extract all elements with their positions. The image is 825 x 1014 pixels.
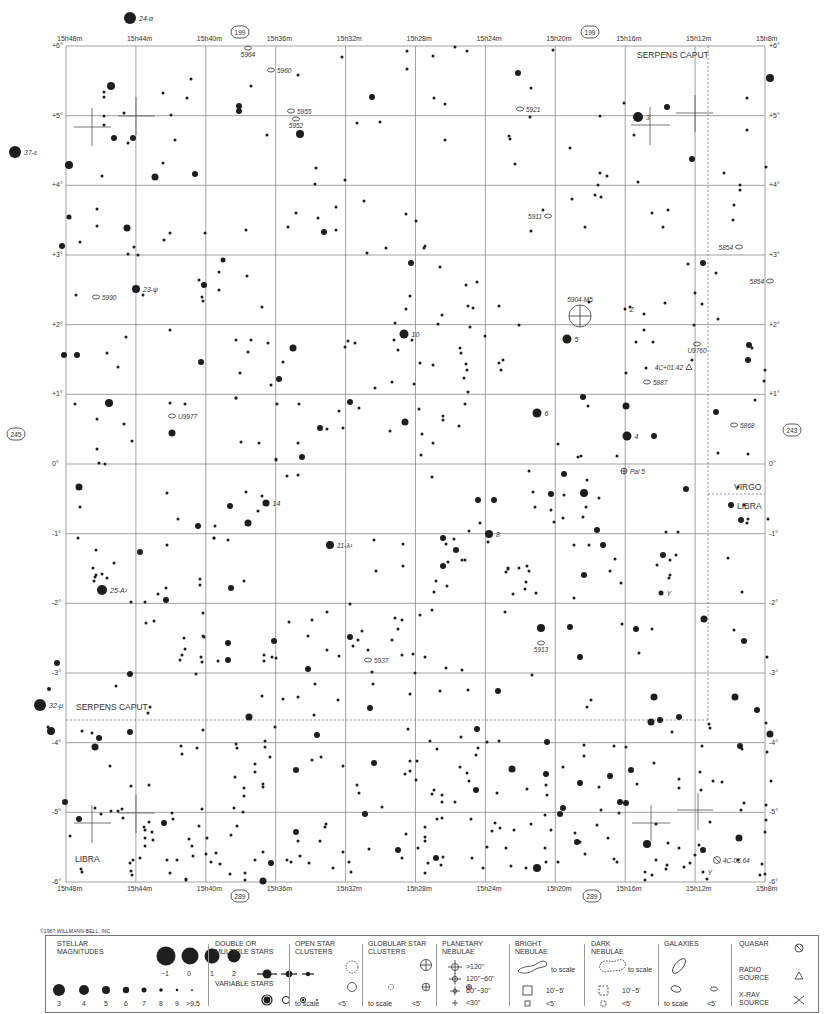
legend-radio-source: RADIO SOURCE <box>739 966 779 982</box>
legend-quasar: QUASAR <box>739 940 769 948</box>
star-designation: 25-A² <box>109 587 128 594</box>
legend-planetary-nebulae: PLANETARY NEBULAE <box>442 940 497 956</box>
dec-label-left: +5° <box>52 112 63 119</box>
star-designation: 6 <box>545 410 549 417</box>
legend-divider <box>289 944 290 1006</box>
star-designation: Y <box>708 869 714 876</box>
ra-label-top: 15h12m <box>686 35 711 42</box>
dec-label-left: -3° <box>52 669 61 676</box>
ra-label-bottom: 15h40m <box>197 885 222 892</box>
ra-label-bottom: 15h28m <box>407 885 432 892</box>
dso-label: U9760 <box>687 347 707 354</box>
ra-label-bottom: 15h16m <box>616 885 641 892</box>
dec-label-right: -1° <box>769 530 778 537</box>
galaxies-small: <5' <box>707 1000 716 1008</box>
dec-label-right: +5° <box>769 112 780 119</box>
legend-double-stars: DOUBLE OR MULTIPLE STARS <box>215 940 285 956</box>
dec-label-left: -6° <box>52 878 61 885</box>
svg-text:243: 243 <box>787 427 798 434</box>
ra-label-top: 15h44m <box>127 35 152 42</box>
star-designation: 23-ψ <box>142 286 158 294</box>
star-chart: 24-α37-ε23-ψ25-A²32-μ11-λ¹101486543ZYY 5… <box>0 0 825 920</box>
ra-label-top: 15h16m <box>616 35 641 42</box>
globular-clusters-to-scale: to scale <box>368 1000 392 1008</box>
deep-sky-objects: 5964596059555952592159115854585459905904… <box>93 46 774 864</box>
star-designation: 14 <box>273 500 281 507</box>
bright-nebulae-small: <5' <box>546 1000 555 1008</box>
legend-open-clusters: OPEN STAR CLUSTERS <box>295 940 360 956</box>
legend-divider <box>584 944 585 1006</box>
svg-text:199: 199 <box>235 29 246 36</box>
magnitude-label: 0 <box>187 970 191 978</box>
dso-label: 5921 <box>526 106 541 113</box>
planetary-size-label: >120" <box>466 963 484 971</box>
magnitude-label: 2 <box>232 970 236 978</box>
bright-nebulae-mid: 10'−5' <box>546 987 564 995</box>
legend-dark-nebulae: DARK NEBULAE <box>591 940 631 956</box>
dec-label-right: +2° <box>769 321 780 328</box>
dso-label: 5937 <box>374 657 389 664</box>
copyright-notice: ©1987 WILLMANN-BELL, INC. <box>40 928 112 934</box>
legend-divider <box>208 944 209 1006</box>
magnitude-label: 1 <box>210 970 214 978</box>
dec-label-right: +6° <box>769 42 780 49</box>
dec-label-right: 0° <box>769 460 776 467</box>
legend-globular-clusters: GLOBULAR STAR CLUSTERS <box>368 940 433 956</box>
ra-label-top: 15h48m <box>57 35 82 42</box>
legend-stellar-magnitudes: STELLAR MAGNITUDES <box>57 940 117 956</box>
star-designation: 4 <box>635 433 639 440</box>
star-designation: 8 <box>496 531 500 538</box>
dso-label: 5960 <box>277 67 292 74</box>
constellation-label: SERPENS CAPUT <box>637 50 709 60</box>
constellation-label: VIRGO <box>734 482 762 492</box>
dso-label: 5955 <box>297 108 312 115</box>
dec-label-right: -4° <box>769 739 778 746</box>
ra-label-top: 15h36m <box>267 35 292 42</box>
dso-label: 5854 <box>719 244 734 251</box>
dec-label-right: -5° <box>769 808 778 815</box>
ra-label-bottom: 15h12m <box>686 885 711 892</box>
dec-label-left: -5° <box>52 808 61 815</box>
galaxies-to-scale: to scale <box>664 1000 688 1008</box>
open-clusters-to-scale: to scale <box>295 1000 319 1008</box>
constellation-label: LIBRA <box>737 501 762 511</box>
ra-label-top: 15h20m <box>546 35 571 42</box>
star-designation: 24-α <box>138 15 154 22</box>
magnitude-label: 8 <box>159 1000 163 1008</box>
legend-variable-stars: VARIABLE STARS <box>215 980 273 988</box>
dark-nebulae-to-scale: to scale <box>628 966 652 974</box>
svg-text:245: 245 <box>11 431 22 438</box>
ra-label-top: 15h24m <box>476 35 501 42</box>
chart-legend: STELLAR MAGNITUDES −1012 3456789>9.5 DOU… <box>45 935 819 1013</box>
magnitude-label: 9 <box>175 1000 179 1008</box>
star-designation: 32-μ <box>49 702 63 710</box>
svg-text:289: 289 <box>587 893 598 900</box>
star-designation: 11-λ¹ <box>337 542 353 549</box>
dec-label-right: +1° <box>769 390 780 397</box>
ra-label-bottom: 15h48m <box>57 885 82 892</box>
dec-label-left: +4° <box>52 181 63 188</box>
dec-label-left: 0° <box>52 460 59 467</box>
dso-label: 5911 <box>528 213 542 220</box>
ra-label-bottom: 15h20m <box>546 885 571 892</box>
svg-text:199: 199 <box>585 29 596 36</box>
legend-divider <box>509 944 510 1006</box>
ra-label-top: 15h8m <box>756 35 778 42</box>
globular-clusters-small: <5' <box>412 1000 421 1008</box>
dec-label-right: -2° <box>769 599 778 606</box>
magnitude-label: >9.5 <box>186 1000 200 1008</box>
dso-label: Pal 5 <box>630 468 645 475</box>
dso-label: U9977 <box>178 413 198 420</box>
legend-divider <box>362 944 363 1006</box>
dec-label-left: +1° <box>52 390 63 397</box>
ra-label-bottom: 15h44m <box>127 885 152 892</box>
dec-label-left: -2° <box>52 599 61 606</box>
planetary-size-label: 120"−60" <box>466 975 495 983</box>
coordinate-grid <box>66 46 765 882</box>
ra-label-bottom: 15h8m <box>756 885 778 892</box>
svg-text:289: 289 <box>235 893 246 900</box>
star-designation: Y <box>667 590 673 597</box>
legend-bright-nebulae: BRIGHT NEBULAE <box>515 940 555 956</box>
magnitude-label: 7 <box>142 1000 146 1008</box>
dso-label: 4C-05.64 <box>723 857 750 864</box>
